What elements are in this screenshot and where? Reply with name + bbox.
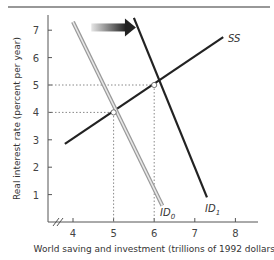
y-tick-label: 1 <box>33 190 39 201</box>
curve-id0 <box>73 22 162 206</box>
y-tick-label: 6 <box>33 53 39 64</box>
curve-label-id0: ID0 <box>160 207 176 221</box>
equilibrium-point <box>152 82 157 87</box>
y-axis-label: Real interest rate (percent per year) <box>12 37 22 200</box>
curve-label-subscript: 0 <box>171 213 176 221</box>
labels: SSID0ID1 <box>160 33 241 221</box>
curve-label-ss: SS <box>228 33 241 44</box>
x-tick-label: 6 <box>151 228 157 239</box>
chart: 123456745678World saving and investment … <box>0 0 274 260</box>
x-tick-label: 8 <box>232 228 238 239</box>
y-tick-label: 3 <box>33 135 39 146</box>
equilibrium-point <box>111 110 116 115</box>
curves <box>65 18 223 206</box>
x-tick-label: 4 <box>70 228 76 239</box>
curve-label-subscript: 1 <box>216 209 220 217</box>
curve-label-id1: ID1 <box>205 203 220 217</box>
x-tick-label: 5 <box>110 228 116 239</box>
x-axis-label: World saving and investment (trillions o… <box>34 244 274 254</box>
shift-arrow-body <box>91 23 126 31</box>
axes: 123456745678World saving and investment … <box>12 15 274 254</box>
x-tick-label: 7 <box>192 228 198 239</box>
y-tick-label: 4 <box>33 107 39 118</box>
y-tick-label: 5 <box>33 80 39 91</box>
y-tick-label: 7 <box>33 25 39 36</box>
y-tick-label: 2 <box>33 162 39 173</box>
